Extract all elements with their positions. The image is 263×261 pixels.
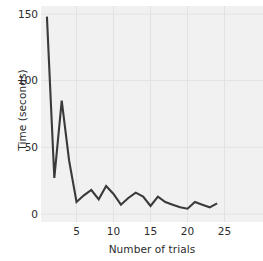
chart-figure: 050100150 Time (seconds) 510152025 Numbe… bbox=[0, 0, 263, 261]
x-tick-label: 15 bbox=[136, 226, 166, 237]
x-axis-ticks: 510152025 bbox=[0, 0, 263, 261]
x-tick-label: 10 bbox=[99, 226, 129, 237]
x-tick-label: 25 bbox=[210, 226, 240, 237]
x-tick-label: 5 bbox=[62, 226, 92, 237]
x-tick-label: 20 bbox=[173, 226, 203, 237]
x-axis-label: Number of trials bbox=[41, 243, 263, 255]
